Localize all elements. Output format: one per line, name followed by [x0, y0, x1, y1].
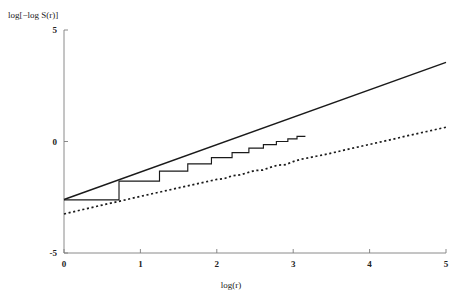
x-tick-label: 5 [444, 259, 449, 269]
x-tick-label: 4 [367, 259, 372, 269]
x-axis-label: log(r) [221, 280, 242, 290]
x-tick-label: 2 [215, 259, 220, 269]
x-tick-label: 3 [291, 259, 296, 269]
chart-background [0, 0, 462, 299]
y-tick-label: 5 [53, 25, 58, 35]
y-tick-label: 0 [53, 137, 58, 147]
x-tick-label: 0 [62, 259, 67, 269]
chart-plot-area: 012345 -505 log[−log S(r)] log(r) [0, 0, 462, 299]
x-tick-label: 1 [138, 259, 143, 269]
chart-figure: 012345 -505 log[−log S(r)] log(r) [0, 0, 462, 299]
y-axis-label: log[−log S(r)] [8, 10, 58, 20]
y-tick-label: -5 [50, 248, 58, 258]
